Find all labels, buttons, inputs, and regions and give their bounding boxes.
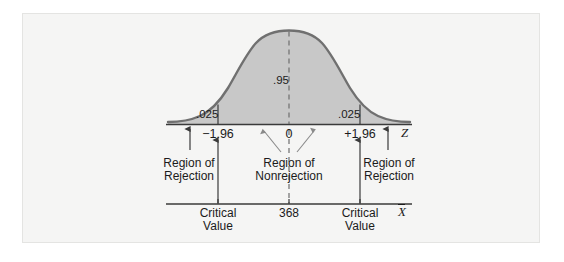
hypothesized-mean-label: 368 — [264, 207, 314, 220]
right-critical-value-label: Critical Value — [322, 207, 398, 234]
left-critical-value-label: Critical Value — [180, 207, 256, 234]
right-tail-area-label: .025 — [338, 108, 360, 121]
nonrejection-line1: Region of — [233, 157, 345, 170]
nonrejection-arrow-left — [264, 131, 281, 152]
nonrejection-line2: Nonrejection — [233, 170, 345, 183]
right-critical-line2: Value — [322, 220, 398, 233]
left-critical-line2: Value — [180, 220, 256, 233]
left-rejection-line2: Rejection — [146, 170, 232, 183]
x-axis-label: X — [398, 205, 406, 220]
z-tick-positive-196: +1.96 — [344, 127, 376, 141]
right-rejection-line2: Rejection — [346, 170, 432, 183]
x-bar-glyph: X — [398, 205, 406, 220]
center-area-label: .95 — [273, 74, 289, 87]
left-rejection-line1: Region of — [146, 157, 232, 170]
z-tick-zero: 0 — [286, 127, 293, 141]
left-rejection-region-label: Region of Rejection — [146, 157, 232, 184]
left-critical-line1: Critical — [180, 207, 256, 220]
nonrejection-region-label: Region of Nonrejection — [233, 157, 345, 184]
plot-svg — [0, 0, 564, 262]
nonrejection-arrow-right — [297, 131, 314, 152]
right-rejection-line1: Region of — [346, 157, 432, 170]
z-axis-label: Z — [401, 126, 408, 141]
right-critical-line1: Critical — [322, 207, 398, 220]
left-tail-area-label: .025 — [196, 108, 218, 121]
z-tick-negative-196: −1.96 — [202, 127, 234, 141]
statistics-figure: .025 .025 .95 −1.96 0 +1.96 Z Region of … — [0, 0, 564, 262]
right-rejection-region-label: Region of Rejection — [346, 157, 432, 184]
